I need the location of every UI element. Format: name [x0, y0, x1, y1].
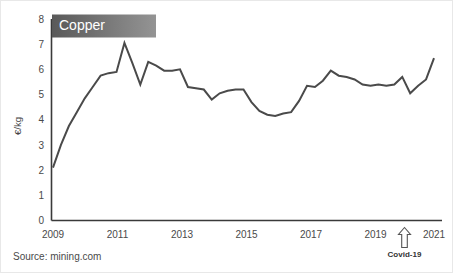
x-tick-label: 2009	[42, 229, 65, 240]
y-tick-label: 4	[38, 114, 44, 125]
copper-price-line	[53, 43, 434, 168]
x-tick-label: 2013	[171, 229, 194, 240]
covid-19-arrow-icon	[399, 228, 411, 248]
covid-19-annotation-label: Covid-19	[388, 250, 422, 259]
x-tick-label: 2021	[423, 229, 446, 240]
y-tick-label: 2	[38, 165, 44, 176]
y-tick-label: 3	[38, 140, 44, 151]
chart-title-label: Copper	[59, 17, 105, 33]
y-tick-label: 0	[38, 215, 44, 226]
y-tick-label: 7	[38, 39, 44, 50]
x-tick-label: 2019	[364, 229, 387, 240]
y-tick-label: 6	[38, 64, 44, 75]
x-tick-label: 2017	[300, 229, 323, 240]
y-axis-title: €/kg	[12, 117, 23, 135]
x-tick-label: 2015	[235, 229, 258, 240]
chart-canvas: 8 7 6 5 4 3 2 1 0 €/kg 2009 2011 2013 20…	[1, 1, 453, 273]
y-tick-label: 5	[38, 89, 44, 100]
chart-figure: 8 7 6 5 4 3 2 1 0 €/kg 2009 2011 2013 20…	[0, 0, 453, 273]
x-tick-label: 2011	[107, 229, 129, 240]
source-note: Source: mining.com	[13, 251, 101, 262]
y-tick-label: 8	[38, 14, 44, 25]
y-tick-label: 1	[38, 190, 44, 201]
